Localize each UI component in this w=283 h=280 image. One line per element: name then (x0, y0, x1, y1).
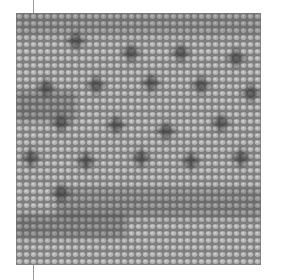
needlepoint-photo (16, 13, 261, 265)
guide-line-top (33, 0, 34, 13)
knit-texture (16, 13, 261, 265)
guide-line-bottom (33, 265, 34, 280)
